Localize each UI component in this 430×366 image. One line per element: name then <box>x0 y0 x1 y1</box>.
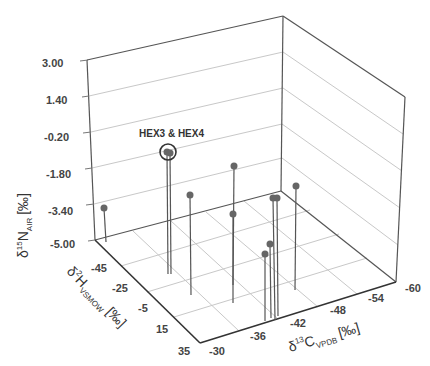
svg-text:δ15NAIR[‰]: δ15NAIR[‰] <box>15 193 34 258</box>
x-tick-label: -36 <box>250 330 266 342</box>
data-point <box>293 183 300 291</box>
annotation-label: HEX3 & HEX4 <box>139 128 204 139</box>
x-tick-label: -48 <box>330 304 346 316</box>
z-tick-label: -0.20 <box>44 131 69 143</box>
y-tick-label: -45 <box>91 262 107 274</box>
z-tick-label: -1.80 <box>46 168 71 180</box>
3d-scatter-chart: 3.00 1.40 -0.20 -1.80 -3.40 -5.00 -45 -2… <box>0 0 430 366</box>
data-point-hex3-hex4 <box>160 144 176 274</box>
y-tick-label: 15 <box>156 323 168 335</box>
x-tick-label: -30 <box>209 345 225 357</box>
y-tick-label: -25 <box>112 282 128 294</box>
x-tick-label: -42 <box>290 317 306 329</box>
z-tick-label: -3.40 <box>48 205 73 217</box>
z-axis-title: δ15NAIR[‰] <box>15 193 34 258</box>
z-tick-label: 1.40 <box>46 94 67 106</box>
y-tick-label: 35 <box>178 345 190 357</box>
z-tick-label: -5.00 <box>50 238 75 250</box>
data-point <box>262 251 269 322</box>
x-tick-label: -60 <box>405 282 421 294</box>
back-right-wall <box>282 52 403 245</box>
z-axis-ticks <box>80 60 95 241</box>
x-tick-label: -54 <box>368 292 385 304</box>
axes-frame <box>87 16 405 343</box>
z-tick-label: 3.00 <box>42 57 63 69</box>
y-tick-label: -5 <box>138 302 148 314</box>
data-point <box>230 211 237 304</box>
